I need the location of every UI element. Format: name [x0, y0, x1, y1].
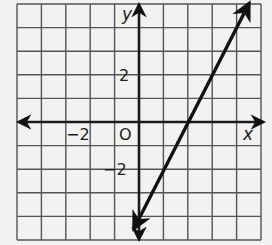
x-tick-label-neg2: −2 [66, 125, 90, 144]
origin-label: O [119, 125, 132, 144]
plotted-line [134, 4, 249, 228]
line-series [134, 4, 249, 228]
coordinate-plane: y x O −2 2 −2 [0, 0, 272, 245]
axis-labels: y x O −2 2 −2 [66, 4, 254, 179]
y-tick-label-neg2: −2 [103, 160, 127, 179]
y-axis-label: y [121, 4, 133, 24]
y-tick-label-2: 2 [119, 66, 129, 85]
axes [19, 5, 263, 239]
x-axis-label: x [242, 124, 254, 144]
